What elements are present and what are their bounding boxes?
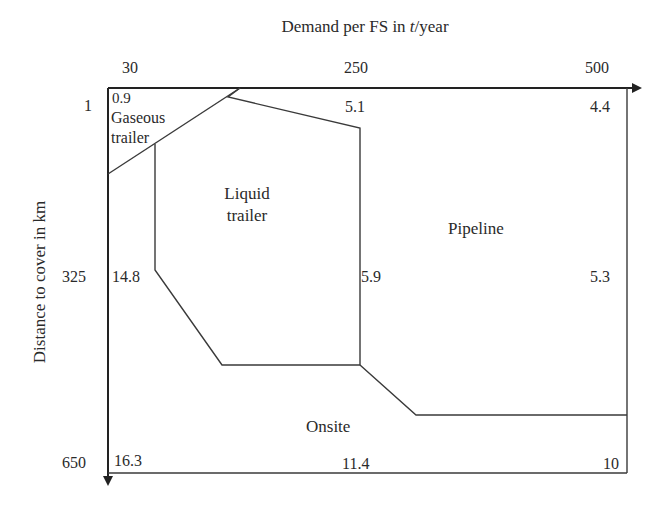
region-gaseous-label-line2: trailer — [111, 128, 165, 148]
x-tick-30: 30 — [122, 59, 138, 77]
y-tick-1: 1 — [84, 97, 92, 115]
value-top-left: 0.9 — [112, 89, 131, 107]
value-top-mid: 5.1 — [345, 98, 365, 116]
value-bottom-left: 16.3 — [114, 452, 142, 470]
x-axis-title-suffix: /year — [415, 17, 449, 36]
value-top-right: 4.4 — [590, 98, 610, 116]
value-bottom-mid: 11.4 — [342, 455, 369, 473]
pipeline-onsite-boundary — [360, 365, 627, 415]
region-pipeline: Pipeline — [448, 218, 504, 240]
value-mid-left: 14.8 — [112, 268, 140, 286]
x-axis-title: Demand per FS in t/year — [0, 18, 670, 36]
value-bottom-right: 10 — [603, 455, 619, 473]
x-tick-250: 250 — [344, 59, 368, 77]
region-liquid-trailer: Liquid trailer — [207, 183, 287, 227]
region-gaseous-trailer: Gaseous trailer — [111, 108, 165, 148]
x-axis-title-prefix: Demand per FS in — [281, 17, 409, 36]
region-gaseous-label-line1: Gaseous — [111, 108, 165, 128]
region-liquid-label-line2: trailer — [207, 205, 287, 227]
y-tick-650: 650 — [62, 454, 86, 472]
y-axis-title: Distance to cover in km — [31, 201, 49, 363]
region-onsite: Onsite — [306, 416, 350, 438]
y-tick-325: 325 — [62, 268, 86, 286]
technology-map-diagram: Demand per FS in t/year 30 250 500 Dista… — [0, 0, 670, 507]
region-liquid-label-line1: Liquid — [207, 183, 287, 205]
value-mid-right: 5.3 — [590, 268, 610, 286]
x-tick-500: 500 — [585, 59, 609, 77]
value-mid-mid: 5.9 — [361, 268, 381, 286]
